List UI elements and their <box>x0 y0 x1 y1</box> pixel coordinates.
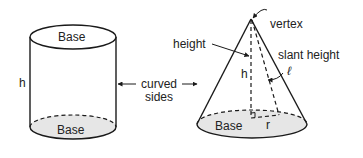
cone-slant-label: slant height <box>278 49 339 61</box>
cone-h-label: h <box>241 68 248 80</box>
cone-base-label: Base <box>215 120 242 132</box>
cone-slant-symbol: ℓ <box>287 65 291 77</box>
height-pointer <box>212 44 249 56</box>
cone-height-label: height <box>173 38 206 50</box>
curved-label-line1: curved <box>136 78 182 90</box>
curved-label: curved sides <box>136 78 182 103</box>
curved-label-line2: sides <box>136 91 182 103</box>
cone-radius-label: r <box>266 119 270 131</box>
cylinder-height-label: h <box>19 77 26 89</box>
vertex-pointer <box>253 9 267 18</box>
geometry-diagram: Base Base h curved sides vertex height h… <box>0 0 363 158</box>
cone-vertex-label: vertex <box>270 18 303 30</box>
cylinder-top-label: Base <box>58 31 85 43</box>
cylinder-bottom-label: Base <box>57 124 84 136</box>
cone <box>197 19 307 138</box>
